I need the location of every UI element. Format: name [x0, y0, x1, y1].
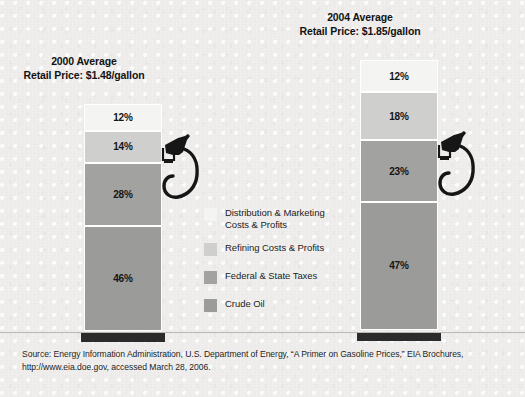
legend-label-refining: Refining Costs & Profits: [225, 242, 324, 254]
pump-2000-segment-refining[interactable]: 14%: [85, 132, 161, 164]
legend-label-distribution-line2: Costs & Profits: [225, 219, 287, 230]
pump-2004-segment-taxes[interactable]: 23%: [361, 141, 437, 203]
legend-label-distribution-line1: Distribution & Marketing: [225, 207, 325, 218]
pump-2004-segment-refining-label: 18%: [389, 111, 409, 122]
legend-swatch-taxes: [204, 271, 217, 284]
pump-2004-bar: 12% 18% 23% 47%: [360, 60, 438, 330]
pump-2000-bar: 12% 14% 28% 46%: [84, 104, 162, 331]
pump-2004-title: 2004 Average Retail Price: $1.85/gallon: [245, 11, 475, 38]
source-citation: Source: Energy Information Administratio…: [22, 348, 508, 373]
legend-item-distribution[interactable]: Distribution & Marketing Costs & Profits: [204, 207, 354, 231]
legend-swatch-distribution: [204, 208, 217, 221]
pump-2000-segment-taxes-label: 28%: [113, 189, 133, 200]
source-citation-line1: Source: Energy Information Administratio…: [22, 348, 508, 361]
legend-item-taxes[interactable]: Federal & State Taxes: [204, 270, 354, 284]
pump-2000-segment-refining-label: 14%: [113, 141, 133, 152]
pump-2004-title-line1: 2004 Average: [327, 11, 393, 23]
pump-2000-title-line2: Retail Price: $1.48/gallon: [23, 69, 144, 81]
pump-2004-segment-crude-oil-label: 47%: [389, 260, 409, 271]
pump-2004-title-line2: Retail Price: $1.85/gallon: [299, 25, 420, 37]
chart-area: 2000 Average Retail Price: $1.48/gallon …: [0, 0, 525, 332]
legend-swatch-refining: [204, 243, 217, 256]
pump-2004-segment-crude-oil[interactable]: 47%: [361, 203, 437, 329]
pump-2004-segment-distribution-label: 12%: [389, 71, 409, 82]
source-citation-line2: http://www.eia.doe.gov, accessed March 2…: [22, 361, 508, 374]
pump-2000-segment-crude-oil-label: 46%: [113, 273, 133, 284]
fuel-nozzle-icon: [154, 127, 210, 227]
pump-2000-segment-distribution[interactable]: 12%: [85, 105, 161, 132]
gasoline-price-infographic: 2000 Average Retail Price: $1.48/gallon …: [0, 0, 525, 397]
fuel-nozzle-icon: [430, 124, 486, 224]
pump-2004-segment-distribution[interactable]: 12%: [361, 61, 437, 93]
legend: Distribution & Marketing Costs & Profits…: [204, 207, 354, 312]
pump-2000-segment-distribution-label: 12%: [113, 112, 133, 123]
legend-item-refining[interactable]: Refining Costs & Profits: [204, 242, 354, 256]
pump-2000-segment-crude-oil[interactable]: 46%: [85, 227, 161, 331]
legend-item-crude-oil[interactable]: Crude Oil: [204, 298, 354, 312]
legend-label-taxes: Federal & State Taxes: [225, 270, 317, 282]
legend-swatch-crude-oil: [204, 299, 217, 312]
pump-2004-base: [357, 332, 441, 341]
pump-2000-title: 2000 Average Retail Price: $1.48/gallon: [0, 55, 199, 82]
pump-2004-nozzle-assembly: [430, 124, 486, 224]
pump-2004-segment-taxes-label: 23%: [389, 166, 409, 177]
legend-label-crude-oil: Crude Oil: [225, 298, 265, 310]
pump-2000-segment-taxes[interactable]: 28%: [85, 164, 161, 227]
legend-label-distribution: Distribution & Marketing Costs & Profits: [225, 207, 325, 231]
pump-2000-nozzle-assembly: [154, 127, 210, 227]
pump-2000-title-line1: 2000 Average: [51, 55, 117, 67]
footer-divider: [0, 332, 525, 333]
pump-2004-segment-refining[interactable]: 18%: [361, 93, 437, 141]
pump-2000-base: [81, 333, 165, 342]
